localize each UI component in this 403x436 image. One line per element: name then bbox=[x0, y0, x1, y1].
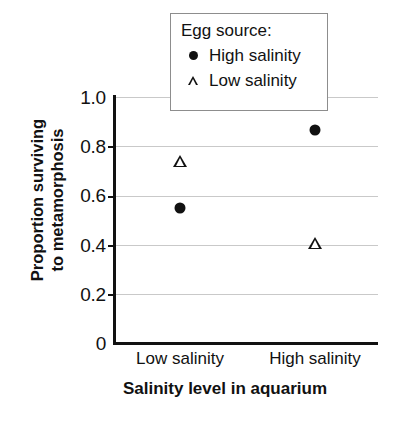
legend-entry-low-salinity: Low salinity bbox=[181, 68, 319, 93]
legend-label-low-salinity: Low salinity bbox=[209, 70, 297, 91]
legend-title: Egg source: bbox=[181, 20, 319, 41]
gridline-0.8 bbox=[116, 146, 378, 147]
y-axis-title: Proportion surviving to metamorphosis bbox=[27, 75, 67, 325]
data-point-low-egg-low-aquarium bbox=[173, 155, 187, 167]
y-axis-title-line-2: to metamorphosis bbox=[47, 75, 67, 325]
filled-circle-icon bbox=[181, 51, 205, 60]
open-triangle-icon bbox=[181, 76, 205, 85]
y-axis-line bbox=[113, 95, 116, 345]
gridline-0.2 bbox=[116, 294, 378, 295]
y-axis-title-line-1: Proportion surviving bbox=[27, 75, 47, 325]
plot-area bbox=[116, 97, 378, 343]
y-tick-mark-0.4 bbox=[108, 245, 114, 247]
gridline-0.4 bbox=[116, 245, 378, 246]
gridline-0.6 bbox=[116, 196, 378, 197]
legend-box: Egg source: High salinity Low salinity bbox=[170, 13, 328, 111]
y-tick-mark-0.8 bbox=[108, 146, 114, 148]
data-point-low-egg-high-aquarium bbox=[308, 237, 322, 249]
legend-label-high-salinity: High salinity bbox=[209, 45, 301, 66]
x-axis-title: Salinity level in aquarium bbox=[60, 379, 390, 399]
x-tick-label-high-salinity: High salinity bbox=[245, 349, 385, 368]
scatter-chart-figure: 1.0 0.8 0.6 0.4 0.2 0 Low salinity High … bbox=[0, 0, 403, 436]
data-point-high-egg-low-aquarium bbox=[175, 203, 186, 214]
x-axis-line bbox=[113, 342, 378, 345]
x-tick-label-low-salinity: Low salinity bbox=[110, 349, 250, 368]
legend-entry-high-salinity: High salinity bbox=[181, 43, 319, 68]
y-tick-label-6: 0 bbox=[48, 334, 106, 353]
data-point-high-egg-high-aquarium bbox=[310, 125, 321, 136]
y-tick-mark-0.6 bbox=[108, 196, 114, 198]
y-tick-mark-0.2 bbox=[108, 294, 114, 296]
